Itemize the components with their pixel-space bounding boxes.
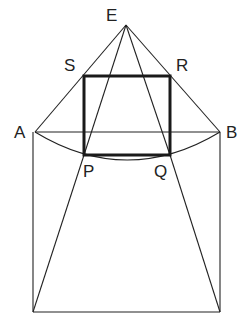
line-EB bbox=[126, 25, 220, 132]
line-Q-BR bbox=[170, 155, 220, 312]
label-B: B bbox=[226, 124, 237, 141]
line-EQ bbox=[126, 25, 170, 155]
label-S: S bbox=[64, 57, 75, 74]
label-E: E bbox=[106, 7, 117, 24]
label-P: P bbox=[83, 163, 94, 180]
geometry-diagram: E S R A B P Q bbox=[0, 0, 242, 331]
line-EP bbox=[84, 25, 126, 155]
line-EA bbox=[35, 25, 126, 132]
label-R: R bbox=[176, 57, 188, 74]
line-P-BL bbox=[33, 155, 84, 312]
label-A: A bbox=[14, 124, 25, 141]
diagram-lines bbox=[0, 0, 242, 331]
label-Q: Q bbox=[154, 163, 167, 180]
